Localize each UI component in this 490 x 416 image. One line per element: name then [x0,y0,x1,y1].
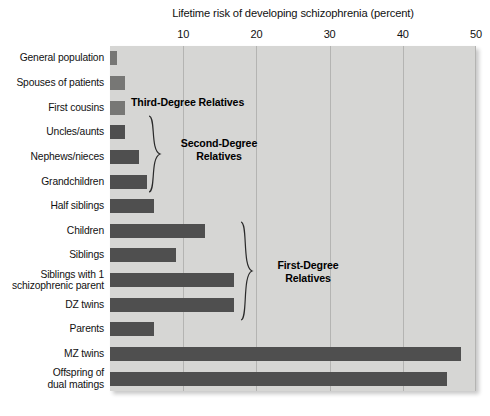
category-label-5: Grandchildren [0,176,104,188]
category-label-0-line1: General population [20,52,104,63]
category-label-8: Siblings [0,249,104,261]
annotation-second-degree-relatives: Second-Degree Relatives [167,137,271,162]
category-label-9-line2: schizophrenic parent [12,280,104,291]
category-label-9: Siblings with 1schizophrenic parent [0,269,104,292]
chart-title: Lifetime risk of developing schizophreni… [110,7,476,19]
x-tick-label-30: 30 [324,28,336,40]
x-tick-label-40: 40 [397,28,409,40]
annotation-second-degree-line1: Second-Degree [181,137,257,149]
bar-10 [110,298,234,312]
category-label-7-line1: Children [67,225,104,236]
category-label-12-line1: MZ twins [64,348,104,359]
bar-5 [110,175,147,189]
x-tick-label-50: 50 [470,28,482,40]
category-label-0: General population [0,52,104,64]
annotation-first-degree-line2: Relatives [285,272,331,284]
category-label-11: Parents [0,323,104,335]
category-label-4-line1: Nephews/nieces [31,151,104,162]
x-tick-label-20: 20 [250,28,262,40]
category-label-1: Spouses of patients [0,77,104,89]
category-label-2-line1: First cousins [48,102,104,113]
schizophrenia-risk-chart: Lifetime risk of developing schizophreni… [0,0,490,416]
category-label-6: Half siblings [0,200,104,212]
annotation-second-degree-line2: Relatives [196,150,242,162]
category-label-10: DZ twins [0,299,104,311]
bar-7 [110,224,205,238]
category-label-13: Offspring ofdual matings [0,367,104,390]
bar-0 [110,51,117,65]
category-label-2: First cousins [0,102,104,114]
annotation-first-degree-line1: First-Degree [277,259,338,271]
bar-13 [110,372,447,386]
bar-12 [110,347,461,361]
x-tick-label-10: 10 [177,28,189,40]
annotation-first-degree-relatives: First-Degree Relatives [258,259,358,284]
brace-second-degree [146,114,162,194]
category-label-8-line1: Siblings [69,249,104,260]
bar-6 [110,199,154,213]
category-label-12: MZ twins [0,348,104,360]
bar-8 [110,248,176,262]
category-label-3: Uncles/aunts [0,126,104,138]
category-label-4: Nephews/nieces [0,151,104,163]
category-axis-labels: General populationSpouses of patientsFir… [0,46,104,391]
bar-4 [110,150,139,164]
category-label-1-line1: Spouses of patients [16,77,104,88]
category-label-7: Children [0,225,104,237]
category-label-10-line1: DZ twins [65,299,104,310]
annotation-third-degree-relatives: Third-Degree Relatives [131,96,244,109]
plot-area: Third-Degree Relatives Second-Degree Rel… [110,46,476,391]
bar-3 [110,125,125,139]
bar-1 [110,76,125,90]
category-label-13-line2: dual matings [47,379,104,390]
category-label-3-line1: Uncles/aunts [46,126,104,137]
brace-first-degree [238,220,254,322]
category-label-11-line1: Parents [70,323,104,334]
bar-2 [110,101,125,115]
bar-11 [110,322,154,336]
category-label-13-line1: Offspring of [53,367,104,378]
category-label-6-line1: Half siblings [50,200,104,211]
category-label-5-line1: Grandchildren [41,176,104,187]
x-axis-tick-labels: 1020304050 [0,28,490,44]
category-label-9-line1: Siblings with 1 [40,269,104,280]
bar-9 [110,273,234,287]
